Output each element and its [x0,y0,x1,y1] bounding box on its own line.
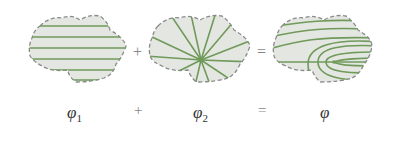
panel-phi2 [146,10,254,90]
label-equals: = [258,102,266,119]
label-phi: φ [320,103,329,123]
panel-phi1 [20,16,130,83]
panel-phi [265,16,380,93]
plus-operator-top: + [133,43,142,60]
stagnation-point-icon [332,60,336,64]
source-point-icon [199,58,204,63]
label-plus: + [134,102,142,119]
label-phi2: φ2 [193,103,208,124]
label-phi1: φ1 [67,103,82,124]
equals-operator-top: = [257,43,266,60]
